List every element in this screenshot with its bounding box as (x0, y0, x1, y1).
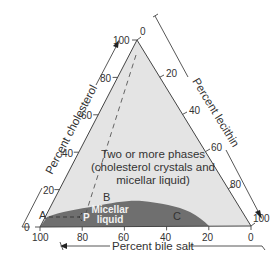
bile-salt-axis-title: Percent bile salt (112, 240, 195, 252)
lec-tick-60: 60 (211, 142, 223, 153)
bile-tick-80: 80 (77, 232, 89, 243)
point-b-label: B (103, 191, 110, 203)
point-c-label: C (173, 210, 181, 222)
chol-tick-20: 20 (43, 185, 55, 196)
bile-tick-100: 100 (32, 232, 49, 243)
point-a-label: A (39, 209, 47, 221)
lec-tick-40: 40 (189, 105, 201, 116)
bile-tick-20: 20 (202, 232, 214, 243)
two-phase-label-line1: Two or more phases (101, 148, 205, 160)
lec-tick-80: 80 (230, 179, 242, 190)
ternary-diagram: 0 20 40 60 80 100 0 20 40 60 80 100 100 … (0, 0, 279, 262)
lec-tick-0: 0 (140, 26, 146, 37)
point-p-label: P (83, 212, 90, 223)
lec-tick-20: 20 (166, 68, 178, 79)
two-phase-label-line3: micellar liquid) (116, 174, 190, 186)
micellar-label-line2: liquid (97, 214, 124, 225)
two-phase-label-line2: (cholesterol crystals and (91, 161, 215, 173)
chol-tick-0: 0 (24, 222, 30, 233)
bile-tick-0: 0 (248, 232, 254, 243)
